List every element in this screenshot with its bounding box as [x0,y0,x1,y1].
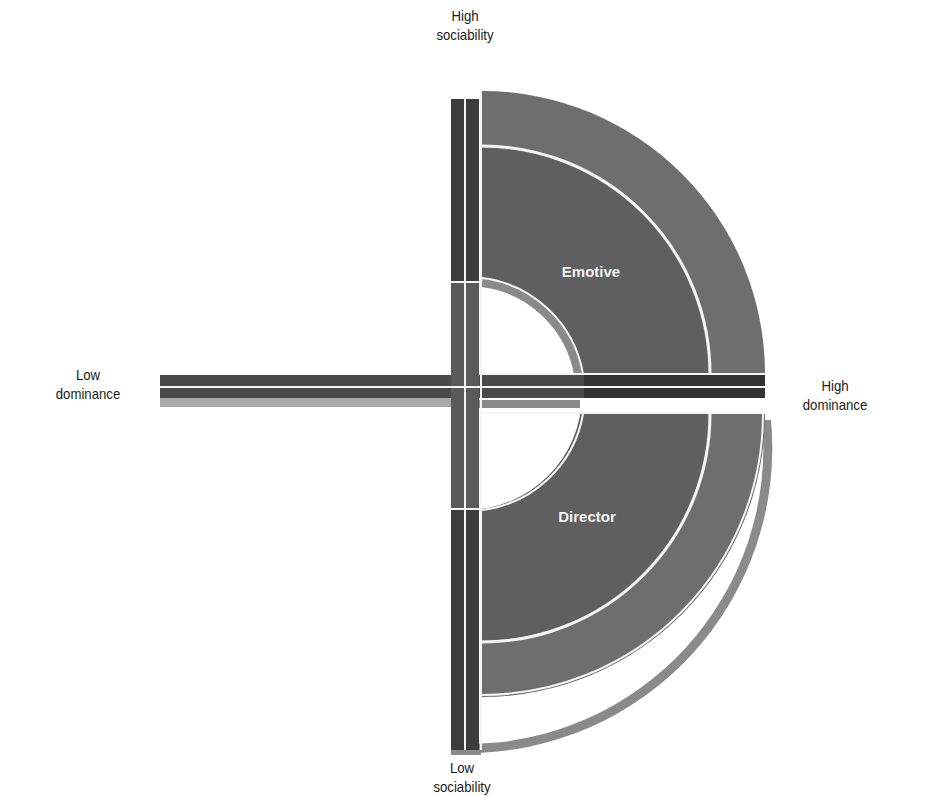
axis-label-low-sociability: Low sociability [414,758,511,796]
horizontal-axis-light-left [160,398,455,407]
axis-label-line: sociability [417,25,514,44]
axis-label-line: Low [40,365,137,384]
vertical-axis-bottom-shadow [451,750,481,755]
horizontal-axis-light-inner [478,400,580,408]
axis-label-line: High [787,376,884,395]
axis-label-line: dominance [40,384,137,403]
axis-label-line: dominance [787,395,884,414]
axis-label-high-dominance: High dominance [787,376,884,414]
horizontal-axis-bar-right-top [584,375,765,386]
axis-label-line: Low [414,758,511,777]
quadrant-label-director: Director [558,508,616,525]
axis-label-high-sociability: High sociability [417,6,514,44]
horizontal-axis-bar-right-bottom [584,388,765,398]
quadrant-label-emotive: Emotive [562,263,620,280]
axis-label-line: sociability [414,777,511,796]
axis-label-line: High [417,6,514,25]
vertical-axis-inner-left [451,283,464,508]
vertical-axis-inner-right [466,283,479,508]
axis-label-low-dominance: Low dominance [40,365,137,403]
